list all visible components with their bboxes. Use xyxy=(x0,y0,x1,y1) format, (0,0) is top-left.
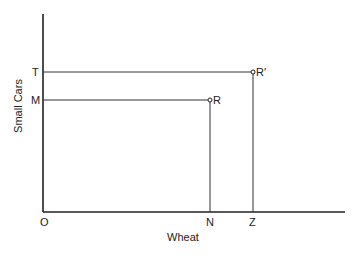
label-Z: Z xyxy=(249,216,256,228)
label-N: N xyxy=(206,216,214,228)
label-M: M xyxy=(31,94,40,106)
point-R-prime xyxy=(251,70,255,74)
production-diagram: R′ R T M O N Z Wheat Small Cars xyxy=(0,0,355,259)
y-axis-label: Small Cars xyxy=(12,79,24,133)
label-T: T xyxy=(32,66,39,78)
point-R xyxy=(208,98,212,102)
x-axis-label: Wheat xyxy=(167,231,199,243)
label-R-prime: R′ xyxy=(256,66,266,78)
label-O: O xyxy=(40,216,49,228)
label-R: R xyxy=(213,94,221,106)
